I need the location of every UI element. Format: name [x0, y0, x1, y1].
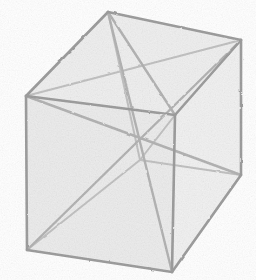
cube-figure-canvas	[0, 0, 256, 280]
wireframe-cube-drawing	[0, 0, 256, 280]
left-vertical-edge	[26, 96, 27, 250]
